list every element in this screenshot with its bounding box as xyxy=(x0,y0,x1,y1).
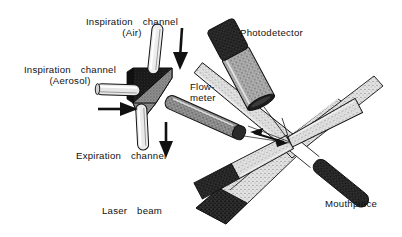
label-laser-beam: Laser beam xyxy=(102,205,186,216)
label-photodetector: Photodetector xyxy=(240,27,330,38)
label-flowmeter: Flow- meter xyxy=(190,81,236,104)
aerosol-flow-arrow xyxy=(98,102,138,116)
expiration-tube-group xyxy=(136,104,149,151)
air-arrow-head xyxy=(173,52,188,70)
label-inspiration-aerosol: Inspiration channel (Aerosol) xyxy=(8,64,132,87)
label-expiration-channel: Expiration channel xyxy=(76,150,196,161)
diagram-figure: Inspiration channel (Air) Inspiration ch… xyxy=(0,0,402,237)
laser-upper-group xyxy=(286,98,362,149)
laser-rod-upper xyxy=(286,98,362,149)
expiration-tube xyxy=(136,104,149,151)
label-mouthpiece: Mouthpiece xyxy=(325,198,397,209)
label-inspiration-air: Inspiration channel (Air) xyxy=(72,16,192,39)
